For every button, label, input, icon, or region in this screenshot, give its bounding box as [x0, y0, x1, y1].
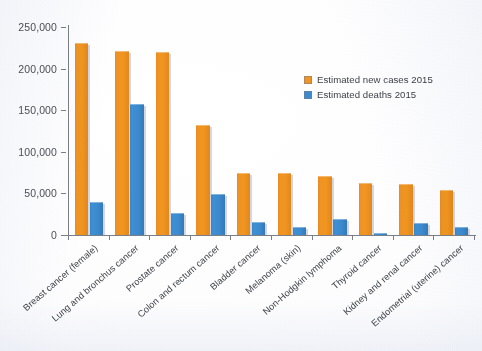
bar-chart-figure: 250,000200,000150,000100,00050,0000 Esti…: [0, 0, 482, 351]
bar-top-highlight: [318, 176, 332, 177]
x-axis-category-label-text: Colon and rectum cancer: [136, 243, 222, 319]
bar-fill: [414, 223, 428, 235]
bar-top-highlight: [130, 104, 144, 105]
y-axis-tick-label: 100,000: [18, 146, 57, 158]
orange-swatch-icon: [304, 76, 312, 84]
bar-deaths: [455, 227, 469, 235]
y-axis-tick-label: 150,000: [18, 104, 57, 116]
bar-top-highlight: [90, 202, 104, 203]
bar-deaths: [252, 222, 266, 235]
legend-item-deaths: Estimated deaths 2015: [304, 89, 433, 100]
bar-top-highlight: [156, 52, 170, 53]
bar-edge-shadow: [103, 204, 105, 235]
bar-fill: [455, 227, 469, 235]
y-axis-tick-label: 200,000: [18, 63, 57, 75]
y-axis-tick-label: 250,000: [18, 21, 57, 33]
bar-top-highlight: [440, 190, 454, 191]
bar-new-cases: [156, 52, 170, 235]
bar-new-cases: [75, 43, 89, 235]
bar-top-highlight: [359, 183, 373, 184]
bar-group: [68, 27, 109, 235]
bar-deaths: [293, 227, 307, 235]
legend-label-deaths: Estimated deaths 2015: [317, 89, 416, 100]
legend-item-new-cases: Estimated new cases 2015: [304, 74, 433, 85]
bar-edge-shadow: [144, 106, 146, 235]
bar-top-highlight: [414, 223, 428, 224]
bar-top-highlight: [455, 227, 469, 228]
bar-group: [393, 27, 434, 235]
chart-legend: Estimated new cases 2015 Estimated death…: [304, 74, 433, 104]
y-axis-tick-mark: [61, 193, 66, 194]
bar-top-highlight: [237, 173, 251, 174]
bar-fill: [115, 51, 129, 235]
x-axis-category-label-text: Kidney and renal cancer: [341, 243, 424, 317]
bar-new-cases: [115, 51, 129, 235]
x-axis-category-label-text: Breast cancer (female): [21, 243, 99, 313]
bar-edge-shadow: [169, 54, 171, 235]
bar-top-highlight: [196, 125, 210, 126]
bar-fill: [293, 227, 307, 235]
bar-fill: [156, 52, 170, 235]
legend-label-new-cases: Estimated new cases 2015: [317, 74, 433, 85]
bar-fill: [90, 202, 104, 235]
bar-fill: [252, 222, 266, 235]
y-axis-tick-mark: [61, 69, 66, 70]
y-axis-tick-mark: [61, 27, 66, 28]
blue-swatch-icon: [304, 91, 312, 99]
bar-fill: [75, 43, 89, 235]
x-axis-category-label-text: Non-Hodgkin lymphoma: [261, 243, 344, 317]
bar-top-highlight: [211, 194, 225, 195]
y-axis-tick-mark: [61, 152, 66, 153]
y-axis-tick-label: 50,000: [24, 187, 57, 199]
bar-top-highlight: [115, 51, 129, 52]
y-axis-tick-mark: [61, 110, 66, 111]
bar-deaths: [90, 202, 104, 235]
bar-top-highlight: [75, 43, 89, 44]
bar-deaths: [414, 223, 428, 235]
x-axis-label-group: Breast cancer (female)Lung and bronchus …: [0, 239, 482, 351]
bar-top-highlight: [278, 173, 292, 174]
bar-top-highlight: [293, 227, 307, 228]
